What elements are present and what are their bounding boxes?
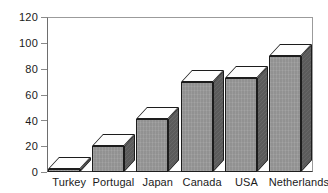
- bar-side-face: [257, 66, 268, 172]
- bar-side-face: [301, 44, 312, 172]
- category-label-canada: Canada: [180, 176, 224, 188]
- category-label-usa: USA: [224, 176, 268, 188]
- bar-side-face: [213, 70, 224, 172]
- category-label-japan: Japan: [136, 176, 180, 188]
- y-tick-label-20: 20: [0, 141, 38, 152]
- bar-front-face: [269, 56, 301, 172]
- bar-front-face: [181, 82, 213, 172]
- bar-chart: 120 100 80 60 40 20 0 TurkeyPortugalJapa…: [0, 0, 328, 193]
- category-label-turkey: Turkey: [47, 176, 91, 188]
- bar-front-face: [225, 78, 257, 172]
- y-tick-label-120: 120: [0, 12, 38, 23]
- bar-front-face: [136, 119, 168, 172]
- y-tick-label-100: 100: [0, 38, 38, 49]
- y-tick-label-60: 60: [0, 90, 38, 101]
- y-tick-mark-0: [41, 172, 47, 173]
- category-label-netherlands: Netherlands: [269, 176, 313, 188]
- y-tick-label-80: 80: [0, 64, 38, 75]
- bar-front-face: [48, 169, 80, 172]
- y-tick-label-40: 40: [0, 116, 38, 127]
- category-label-portugal: Portugal: [91, 176, 135, 188]
- y-tick-label-0: 0: [0, 167, 38, 178]
- bar-front-face: [92, 146, 124, 172]
